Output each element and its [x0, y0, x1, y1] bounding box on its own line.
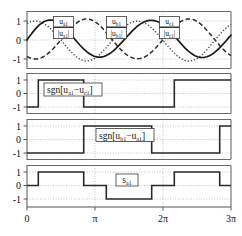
legend-uc1-den-tail: | [174, 29, 176, 38]
panel3-ytick-neg1: -1 [13, 148, 21, 159]
panel4-ytick-1: 1 [16, 167, 21, 178]
panel3-label-tail: ] [142, 131, 145, 141]
panel2-label-head: sgn[u [47, 85, 68, 95]
panel4-ytick-neg1: -1 [13, 194, 21, 205]
panel-sa1: 1 0 -1 sa1 0 π 2π 3π [13, 165, 236, 224]
legend-ub1-num-sub: b1 [116, 21, 122, 27]
panel3-ytick-1: 1 [16, 121, 21, 132]
panel-sgn-ua1-uc1: 1 0 -1 sgn[ua1−uc1] [13, 73, 231, 114]
panel-sgn-ub1-ua1: 1 0 -1 sgn[ub1−ua1] [13, 119, 231, 160]
chart-svg: 1 0 -1 ua1 |ua1| [0, 0, 242, 236]
xtick-2pi: 2π [158, 213, 168, 224]
panel2-ytick-neg1: -1 [13, 102, 21, 113]
legend-label-ua1: ua1 |ua1| [54, 17, 74, 39]
panel4-ytick-0: 0 [16, 180, 21, 191]
panel3-series-label: sgn[ub1−ua1] [96, 129, 154, 142]
panel3-y-ticks: 1 0 -1 [13, 121, 27, 159]
xtick-3pi: 3π [226, 213, 236, 224]
legend-ua1-den-tail: | [68, 29, 70, 38]
legend-label-uc1: uc1 |uc1| [160, 17, 180, 39]
panel2-ytick-1: 1 [16, 75, 21, 86]
legend-ub1-den-tail: | [121, 29, 123, 38]
panel2-label-mid: −u [74, 85, 84, 95]
panel4-y-ticks: 1 0 -1 [13, 167, 27, 205]
x-axis-ticks: 0 π 2π 3π [25, 207, 237, 224]
xtick-0: 0 [25, 213, 30, 224]
legend-ua1-num-sub: a1 [63, 21, 68, 27]
panel2-y-ticks: 1 0 -1 [13, 75, 27, 113]
xtick-pi: π [92, 213, 97, 224]
panel3-label-mid: −u [126, 131, 136, 141]
signal-waveform-figure: 1 0 -1 ua1 |ua1| [0, 0, 242, 236]
panel4-label-sub1: a1 [126, 180, 132, 186]
panel3-ytick-0: 0 [16, 134, 21, 145]
panel2-ytick-0: 0 [16, 88, 21, 99]
panel1-ytick-0: 0 [16, 35, 21, 46]
panel1-ytick-neg1: -1 [13, 54, 21, 65]
panel-normalized-voltages: 1 0 -1 ua1 |ua1| [13, 11, 231, 69]
legend-label-ub1: ub1 |ub1| [107, 17, 127, 39]
panel3-label-head: sgn[u [99, 131, 120, 141]
legend-uc1-num-sub: c1 [169, 21, 174, 27]
panel1-y-ticks: 1 0 -1 [13, 16, 27, 65]
panel2-label-tail: ] [90, 85, 93, 95]
panel2-series-label: sgn[ua1−uc1] [44, 83, 102, 96]
panel4-series-label: sa1 [116, 174, 138, 186]
panel1-ytick-1: 1 [16, 16, 21, 27]
